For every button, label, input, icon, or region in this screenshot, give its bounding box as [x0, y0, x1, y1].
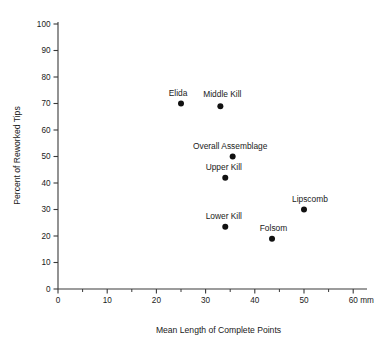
x-tick-label: 40: [250, 296, 260, 305]
data-point-label: Lipscomb: [292, 194, 328, 204]
scatter-chart: 01020304050607080901000102030405060mm El…: [0, 0, 389, 347]
data-point-marker: [217, 103, 223, 109]
y-tick-label: 70: [41, 99, 51, 108]
plot-area: 01020304050607080901000102030405060mm El…: [0, 0, 389, 347]
y-tick-label: 100: [37, 20, 51, 29]
data-point-marker: [269, 236, 275, 242]
y-tick-label: 0: [46, 285, 51, 294]
data-point-label: Lower Kill: [206, 211, 242, 221]
y-tick-label: 20: [41, 232, 51, 241]
x-tick-label: 20: [152, 296, 162, 305]
y-axis-title: Percent of Reworked Tips: [12, 106, 22, 204]
data-point-label: Elida: [169, 88, 188, 98]
x-tick-label: 0: [56, 296, 61, 305]
data-point-marker: [230, 154, 236, 160]
y-tick-label: 30: [41, 205, 51, 214]
data-point-label: Overall Assemblage: [193, 141, 268, 151]
y-tick-label: 10: [41, 258, 51, 267]
x-tick-label: 60: [349, 296, 359, 305]
x-tick-label: 30: [201, 296, 211, 305]
y-tick-label: 50: [41, 152, 51, 161]
y-tick-label: 60: [41, 126, 51, 135]
data-point-marker: [178, 101, 184, 107]
x-axis-unit-label: mm: [360, 296, 374, 305]
axes: [58, 22, 367, 289]
axis-ticks: [54, 24, 354, 294]
data-point-label: Folsom: [260, 223, 287, 233]
data-point-marker: [222, 224, 228, 230]
data-point-marker: [301, 207, 307, 213]
data-point-label: Middle Kill: [203, 89, 241, 99]
y-tick-label: 80: [41, 73, 51, 82]
data-point-label: Upper Kill: [206, 162, 242, 172]
x-axis-title: Mean Length of Complete Points: [156, 325, 281, 335]
y-tick-label: 40: [41, 179, 51, 188]
y-tick-label: 90: [41, 46, 51, 55]
data-point-marker: [222, 175, 228, 181]
data-points: [178, 101, 307, 242]
x-tick-label: 10: [103, 296, 113, 305]
x-tick-label: 50: [299, 296, 309, 305]
